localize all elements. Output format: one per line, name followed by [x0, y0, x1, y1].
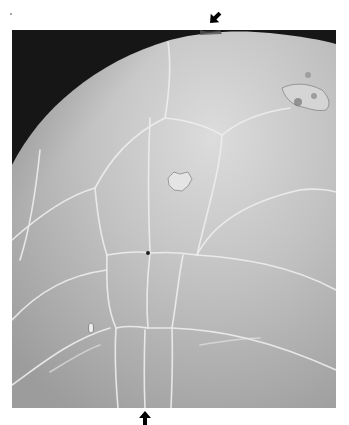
bottom-arrow-icon	[139, 411, 151, 425]
top-arrow-icon	[206, 9, 224, 27]
photo-frame	[12, 30, 336, 408]
speck-dot	[10, 13, 12, 15]
micrograph-figure	[0, 0, 349, 425]
